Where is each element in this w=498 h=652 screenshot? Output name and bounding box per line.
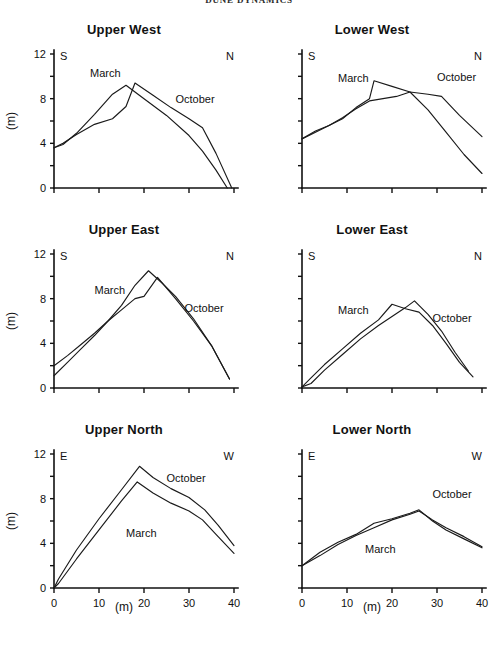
right-direction-label: N xyxy=(474,250,482,262)
series-label-march: March xyxy=(365,543,396,555)
x-axis-title: (m) xyxy=(6,600,242,614)
left-direction-label: S xyxy=(308,50,315,62)
series-line-october xyxy=(302,510,482,566)
panel-title: Lower West xyxy=(254,22,490,37)
left-direction-label: S xyxy=(60,250,67,262)
figure-root: DUNE DYNAMICS Upper West (m) 04812SNMarc… xyxy=(0,0,498,652)
y-tick-label: 8 xyxy=(40,93,46,105)
left-direction-label: E xyxy=(308,450,315,462)
series-line-october xyxy=(54,271,230,379)
series-label-march: March xyxy=(90,67,121,79)
panel-title: Lower North xyxy=(254,422,490,437)
left-direction-label: S xyxy=(308,250,315,262)
right-direction-label: W xyxy=(224,450,235,462)
series-label-october: October xyxy=(167,472,206,484)
panel-lower-north: Lower North 010203040EWMarchOctober (m) xyxy=(254,422,490,622)
plot-upper-west: 04812SNMarchOctober xyxy=(6,40,242,222)
panel-title: Upper East xyxy=(6,222,242,237)
series-label-march: March xyxy=(338,304,369,316)
plot-upper-east: 04812SNMarchOctober xyxy=(6,240,242,422)
series-label-march: March xyxy=(95,284,126,296)
series-label-october: October xyxy=(437,71,476,83)
y-tick-label: 0 xyxy=(40,182,46,194)
y-tick-label: 12 xyxy=(34,248,46,260)
series-label-october: October xyxy=(433,488,472,500)
y-tick-label: 4 xyxy=(40,137,46,149)
plot-lower-west: SNMarchOctober xyxy=(254,40,490,222)
running-head: DUNE DYNAMICS xyxy=(0,0,498,5)
series-line-march xyxy=(302,81,482,174)
panel-title: Upper North xyxy=(6,422,242,437)
y-tick-label: 0 xyxy=(40,582,46,594)
y-tick-label: 4 xyxy=(40,337,46,349)
y-tick-label: 8 xyxy=(40,493,46,505)
right-direction-label: N xyxy=(474,50,482,62)
left-direction-label: E xyxy=(60,450,67,462)
series-line-october xyxy=(302,92,482,139)
series-label-march: March xyxy=(338,72,369,84)
series-label-october: October xyxy=(176,93,215,105)
series-line-march xyxy=(54,277,230,379)
right-direction-label: W xyxy=(472,450,483,462)
panel-title: Lower East xyxy=(254,222,490,237)
y-tick-label: 4 xyxy=(40,537,46,549)
y-tick-label: 0 xyxy=(40,382,46,394)
panel-title: Upper West xyxy=(6,22,242,37)
right-direction-label: N xyxy=(226,50,234,62)
right-direction-label: N xyxy=(226,250,234,262)
left-direction-label: S xyxy=(60,50,67,62)
panel-upper-east: Upper East (m) 04812SNMarchOctober xyxy=(6,222,242,422)
y-tick-label: 8 xyxy=(40,293,46,305)
series-label-march: March xyxy=(126,527,157,539)
y-tick-label: 12 xyxy=(34,48,46,60)
series-label-october: October xyxy=(433,312,472,324)
plot-lower-east: SNMarchOctober xyxy=(254,240,490,422)
panel-upper-north: Upper North (m) 04812010203040EWMarchOct… xyxy=(6,422,242,622)
plot-lower-north: 010203040EWMarchOctober xyxy=(254,440,490,622)
plot-upper-north: 04812010203040EWMarchOctober xyxy=(6,440,242,622)
panel-lower-west: Lower West SNMarchOctober xyxy=(254,22,490,222)
panel-lower-east: Lower East SNMarchOctober xyxy=(254,222,490,422)
x-axis-title: (m) xyxy=(254,600,490,614)
y-tick-label: 12 xyxy=(34,448,46,460)
panel-upper-west: Upper West (m) 04812SNMarchOctober xyxy=(6,22,242,222)
series-label-october: October xyxy=(185,302,224,314)
